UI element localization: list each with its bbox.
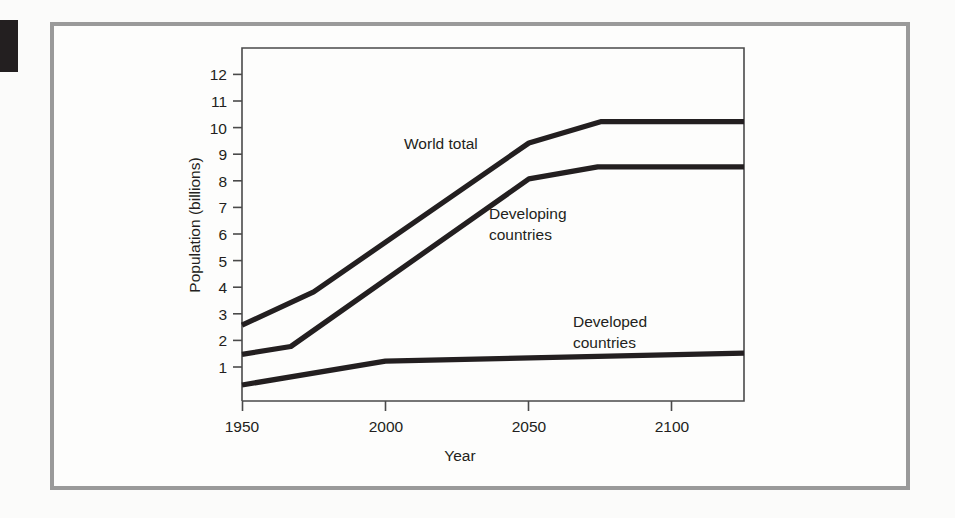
plot-axes	[242, 48, 744, 401]
ytick-label-5: 5	[218, 253, 227, 270]
ytick-label-10: 10	[210, 120, 228, 137]
ytick-label-2: 2	[218, 332, 227, 349]
y-axis-tick-labels: 12 11 10 9 8 7 6 5 4 3 2 1	[210, 66, 228, 376]
series-lines	[242, 122, 744, 385]
y-axis-ticks	[233, 74, 242, 367]
y-axis-title: Population (billions)	[186, 157, 203, 292]
population-line-chart: 12 11 10 9 8 7 6 5 4 3 2 1 1950 2000 205…	[0, 0, 955, 518]
ytick-label-7: 7	[218, 199, 227, 216]
ytick-label-12: 12	[210, 66, 227, 83]
xtick-label-1950: 1950	[225, 418, 260, 435]
plot-box-outline	[242, 48, 744, 401]
x-axis-ticks	[243, 401, 672, 411]
ytick-label-9: 9	[218, 146, 227, 163]
series-label-world-total: World total	[404, 135, 478, 152]
series-label-developing-countries-line1: Developing	[489, 205, 567, 222]
series-label-developing-countries-line2: countries	[489, 226, 552, 243]
x-axis-title: Year	[444, 447, 475, 464]
xtick-label-2100: 2100	[655, 418, 690, 435]
ytick-label-3: 3	[218, 306, 227, 323]
x-axis-tick-labels: 1950 2000 2050 2100	[225, 418, 690, 435]
xtick-label-2050: 2050	[512, 418, 547, 435]
ytick-label-8: 8	[218, 173, 227, 190]
xtick-label-2000: 2000	[369, 418, 404, 435]
series-label-developed-countries-line1: Developed	[573, 313, 647, 330]
ytick-label-1: 1	[218, 359, 227, 376]
series-line-world-total	[242, 122, 744, 326]
series-line-developing-countries	[242, 167, 744, 355]
ytick-label-6: 6	[218, 226, 227, 243]
series-label-developed-countries-line2: countries	[573, 334, 636, 351]
ytick-label-11: 11	[211, 93, 227, 110]
ytick-label-4: 4	[218, 279, 227, 296]
series-line-developed-countries	[242, 353, 744, 385]
figure-root: 12 11 10 9 8 7 6 5 4 3 2 1 1950 2000 205…	[0, 0, 955, 518]
